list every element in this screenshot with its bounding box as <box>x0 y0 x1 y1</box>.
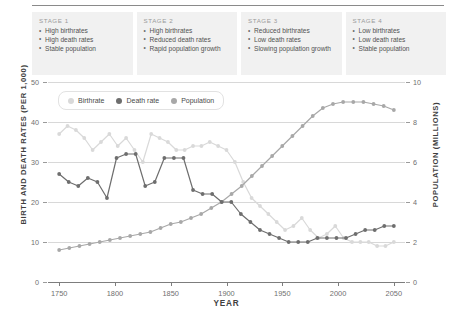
data-point <box>362 100 366 104</box>
data-point <box>124 152 128 156</box>
y-axis-right-label: 10 <box>413 78 431 87</box>
data-point <box>280 144 284 148</box>
x-axis-tick <box>227 282 228 286</box>
data-point <box>315 236 319 240</box>
data-point <box>88 242 92 246</box>
data-point <box>296 240 300 244</box>
y-axis-right-label: 4 <box>413 198 431 207</box>
y-axis-right-tick <box>406 202 410 203</box>
data-point <box>216 144 220 148</box>
x-axis-label: 1900 <box>207 289 247 298</box>
legend-item-population[interactable]: Population <box>171 97 214 104</box>
data-point <box>287 240 291 244</box>
legend-swatch-icon <box>116 98 122 104</box>
stage-bullet-list: High birthrates Reduced death rates Rapi… <box>144 27 234 53</box>
stage-bullet: Stable population <box>353 45 443 53</box>
data-point <box>229 200 233 204</box>
data-point <box>200 144 204 148</box>
data-point <box>78 244 82 248</box>
data-point <box>301 124 305 128</box>
stage-bullet-list: Reduced birthrates Low death rates Slowi… <box>248 27 338 53</box>
data-point <box>321 106 325 110</box>
demographic-transition-chart: STAGE 1 High birthrates High death rates… <box>0 0 453 315</box>
data-point <box>354 232 358 236</box>
legend-item-death-rate[interactable]: Death rate <box>116 97 159 104</box>
data-point <box>166 140 170 144</box>
data-point <box>220 200 224 204</box>
data-point <box>182 156 186 160</box>
data-point <box>107 132 111 136</box>
data-point <box>209 206 213 210</box>
data-point <box>392 240 396 244</box>
stage-bullet: Low birthrates <box>353 27 443 35</box>
stage-bullet: Stable population <box>39 45 129 53</box>
stage-title: STAGE 4 <box>353 17 443 24</box>
stage-bullet-list: Low birthrates Low death rates Stable po… <box>353 27 443 53</box>
x-axis-label: 1800 <box>95 289 135 298</box>
x-axis-label: 1750 <box>39 289 79 298</box>
legend-label: Death rate <box>126 97 159 104</box>
series-birthrate <box>57 124 395 248</box>
stage-bullet: Low death rates <box>353 36 443 44</box>
data-point <box>283 228 287 232</box>
top-divider <box>32 5 444 6</box>
data-point <box>91 148 95 152</box>
data-point <box>66 124 70 128</box>
y-axis-right-label: 8 <box>413 118 431 127</box>
data-point <box>116 144 120 148</box>
y-axis-left-label: 0 <box>21 278 39 287</box>
data-point <box>183 148 187 152</box>
legend-label: Birthrate <box>78 97 104 104</box>
stage-bullet: High birthrates <box>39 27 129 35</box>
data-point <box>384 244 388 248</box>
data-point <box>138 232 142 236</box>
data-point <box>128 234 132 238</box>
legend-item-birthrate[interactable]: Birthrate <box>68 97 104 104</box>
data-point <box>341 100 345 104</box>
stage-boxes: STAGE 1 High birthrates High death rates… <box>32 12 446 75</box>
data-point <box>57 132 61 136</box>
stage-box-2: STAGE 2 High birthrates Reduced death ra… <box>137 12 238 75</box>
y-axis-right-label: 6 <box>413 158 431 167</box>
data-point <box>270 154 274 158</box>
data-point <box>375 244 379 248</box>
data-point <box>169 222 173 226</box>
data-point <box>134 152 138 156</box>
data-point <box>249 220 253 224</box>
data-point <box>382 104 386 108</box>
y-axis-right-tick <box>406 122 410 123</box>
stage-bullet: Slowing population growth <box>248 45 338 53</box>
data-point <box>199 212 203 216</box>
data-point <box>382 224 386 228</box>
data-point <box>225 148 229 152</box>
chart-legend: Birthrate Death rate Population <box>58 91 224 110</box>
y-axis-right-tick <box>406 282 410 283</box>
data-point <box>74 128 78 132</box>
legend-label: Population <box>181 97 214 104</box>
stage-box-1: STAGE 1 High birthrates High death rates… <box>32 12 133 75</box>
data-point <box>118 236 122 240</box>
data-point <box>57 172 61 176</box>
data-point <box>105 196 109 200</box>
data-point <box>67 246 71 250</box>
data-point <box>306 240 310 244</box>
y-axis-right-label: 0 <box>413 278 431 287</box>
y-axis-right-tick <box>406 162 410 163</box>
data-point <box>233 160 237 164</box>
data-point <box>201 192 205 196</box>
data-point <box>189 216 193 220</box>
stage-title: STAGE 3 <box>248 17 338 24</box>
data-point <box>358 240 362 244</box>
y-axis-left-tick <box>43 202 47 203</box>
stage-bullet: High death rates <box>39 36 129 44</box>
data-point <box>291 134 295 138</box>
data-point <box>172 156 176 160</box>
stage-bullet: Rapid population growth <box>144 45 234 53</box>
data-point <box>268 232 272 236</box>
x-axis-label: 2050 <box>374 289 414 298</box>
data-point <box>372 102 376 106</box>
data-point <box>208 140 212 144</box>
data-point <box>82 136 86 140</box>
x-axis-tick <box>59 282 60 286</box>
y-axis-right-tick <box>406 242 410 243</box>
